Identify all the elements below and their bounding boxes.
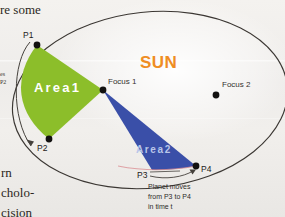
point-p2-label: P2 [37,144,47,153]
point-p2-dot [46,136,53,143]
point-p4-dot [193,163,200,170]
orbit-diagram-svg [0,0,285,217]
p3-leader-line [150,171,180,172]
focus-1-dot [100,87,107,94]
area2-sector [103,90,196,170]
planet-motion-caption-line-2: from P3 to P4 [148,192,191,201]
page-text-bottom-fragment-3: cision [1,206,32,217]
point-p4-label: P4 [201,165,211,174]
point-p1-label: P1 [23,31,33,40]
page-text-left-fragment-2: P2 [0,79,6,85]
area1-label: Area1 [34,81,81,94]
point-p1-dot [34,42,41,49]
page-text-left-fragment-1: es [0,71,5,77]
page-text-bottom-fragment-1: rn [1,166,12,179]
figure-root: re some es P2 rn cholo- cision SUN Area1… [0,0,285,217]
focus-2-label: Focus 2 [222,81,250,89]
area2-label: Area2 [136,145,172,155]
page-text-top-fragment: re some [0,3,41,16]
focus-1-label: Focus 1 [108,78,136,86]
focus-2-dot [213,92,220,99]
sun-label: SUN [140,54,177,71]
point-p3-label: P3 [137,171,147,180]
page-text-bottom-fragment-2: cholo- [1,186,34,199]
planet-motion-caption-line-1: Planet moves [148,182,190,191]
planet-motion-caption-line-3: in time t [148,202,173,211]
